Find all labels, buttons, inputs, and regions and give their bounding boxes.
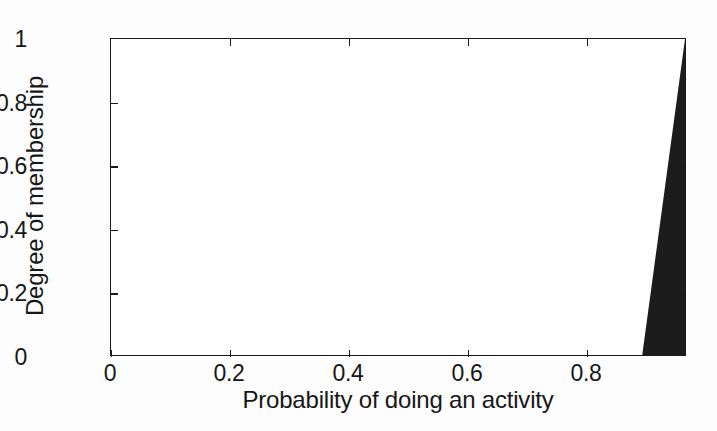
y-tick-label: 0.8 <box>0 90 27 117</box>
y-tick-mark-right <box>678 230 685 231</box>
y-tick-mark <box>111 230 118 231</box>
y-tick-mark-right <box>678 293 685 294</box>
x-tick-label: 0.4 <box>313 360 383 387</box>
y-tick-label: 0.2 <box>0 280 27 307</box>
x-tick-label: 0.6 <box>432 360 502 387</box>
x-tick-mark-top <box>587 39 588 46</box>
membership-function-series <box>111 39 685 355</box>
y-tick-mark-right <box>678 103 685 104</box>
x-tick-label: 0 <box>75 360 145 387</box>
x-tick-mark <box>230 350 231 357</box>
y-tick-mark-right <box>678 166 685 167</box>
y-tick-label: 1 <box>0 26 27 53</box>
x-tick-label: 0.2 <box>194 360 264 387</box>
x-tick-mark-top <box>349 39 350 46</box>
x-tick-mark-top <box>230 39 231 46</box>
x-tick-mark <box>349 350 350 357</box>
membership-triangle-fill <box>111 39 685 355</box>
x-tick-mark <box>468 350 469 357</box>
y-axis-label: Degree of membership <box>21 26 49 366</box>
y-tick-label: 0 <box>0 344 27 371</box>
y-tick-label: 0.4 <box>0 217 27 244</box>
x-tick-label: 0.8 <box>551 360 621 387</box>
x-tick-mark <box>587 350 588 357</box>
y-tick-mark <box>111 103 118 104</box>
x-tick-mark <box>111 350 112 357</box>
y-tick-mark <box>111 166 118 167</box>
figure-canvas: Degree of membership 0 0.2 0.4 0.6 0.8 1… <box>0 0 717 431</box>
x-tick-mark-top <box>468 39 469 46</box>
x-axis-label: Probability of doing an activity <box>110 386 686 414</box>
plot-area <box>110 38 686 356</box>
y-tick-label: 0.6 <box>0 153 27 180</box>
y-tick-mark <box>111 293 118 294</box>
